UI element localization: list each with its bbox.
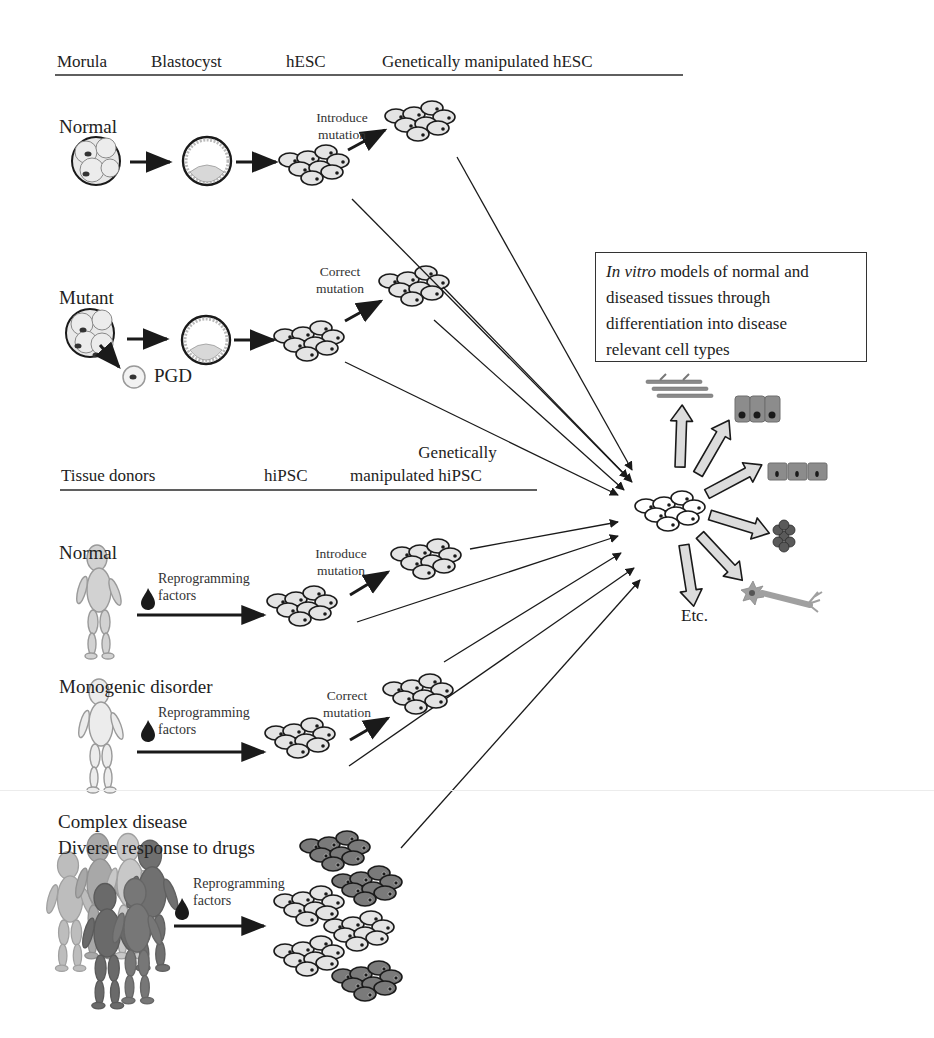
header-gm-hesc: Genetically manipulated hESC: [382, 53, 593, 72]
hipsc-colonies-diverse: [274, 831, 402, 1001]
blastocyst-normal: [183, 137, 231, 185]
hipsc-colony-normal: [267, 586, 337, 626]
people-group-icon: [44, 834, 180, 1009]
row-label-normal: Normal: [59, 117, 117, 138]
in-vitro-italic: In vitro: [606, 262, 656, 281]
header-tissue-donors: Tissue donors: [61, 467, 155, 486]
muscle-fibers-icon: [646, 374, 713, 398]
gm-hipsc-colony-correct: [383, 674, 453, 714]
header-blastocyst: Blastocyst: [151, 53, 222, 72]
header-manipulated-hipsc: manipulated hiPSC: [350, 467, 482, 486]
header-hipsc: hiPSC: [264, 467, 307, 486]
reprogramming-drop-icon: [141, 588, 155, 610]
morula-mutant: [66, 309, 114, 358]
pgd-cell: [123, 366, 145, 388]
correct-mutation-label: Correct mutation: [300, 264, 380, 298]
gm-hipsc-colony-introduce: [391, 539, 461, 579]
etc-label: Etc.: [681, 607, 708, 626]
blastocyst-mutant: [182, 316, 230, 364]
cuboidal-epithelium-icon: [768, 463, 827, 480]
hesc-colony-normal: [279, 145, 349, 185]
gm-hesc-colony-introduce: [385, 101, 455, 141]
hexagonal-cells-icon: [773, 520, 795, 552]
row-label-complex-disease: Complex disease: [58, 812, 187, 833]
outcome-description-box: In vitro models of normal and diseased t…: [595, 252, 867, 362]
pgd-label: PGD: [154, 366, 192, 387]
header-genetically: Genetically: [380, 444, 535, 463]
introduce-mutation-label-ipsc: Introduce mutation: [301, 546, 381, 580]
diagram-canvas: [0, 0, 934, 1038]
morula-normal: [72, 137, 120, 185]
arrow-correct-mutation-hesc: [345, 301, 381, 321]
reprogramming-factors-label: Reprogramming factors: [193, 876, 285, 910]
introduce-mutation-label: Introduce mutation: [302, 110, 382, 144]
reprogramming-drop-icon: [141, 720, 155, 742]
central-stem-cell-cluster: [635, 491, 705, 531]
reprogramming-factors-label: Reprogramming factors: [158, 705, 250, 739]
header-hesc: hESC: [286, 53, 326, 72]
reprogramming-factors-label: Reprogramming factors: [158, 571, 250, 605]
row-label-monogenic: Monogenic disorder: [59, 677, 213, 698]
row-label-mutant: Mutant: [59, 288, 114, 309]
header-morula: Morula: [57, 53, 107, 72]
scan-artifact-line: [0, 790, 934, 791]
hesc-colony-mutant: [274, 321, 344, 361]
neuron-icon: [741, 581, 822, 612]
row-label-diverse-response: Diverse response to drugs: [58, 838, 255, 859]
columnar-epithelium-icon: [735, 396, 780, 422]
row-label-donor-normal: Normal: [59, 543, 117, 564]
correct-mutation-label-ipsc: Correct mutation: [307, 688, 387, 722]
hipsc-colony-monogenic: [265, 718, 335, 758]
